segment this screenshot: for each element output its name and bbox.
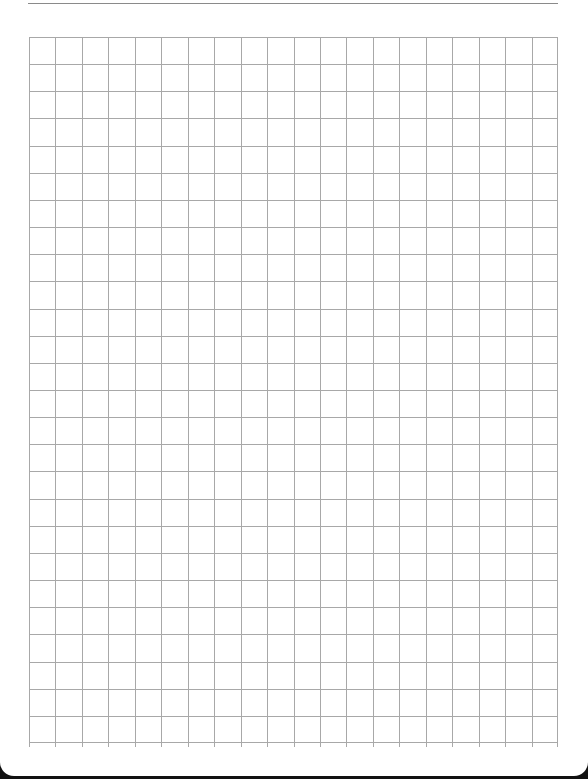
header-rule bbox=[28, 3, 558, 4]
graph-paper-sheet bbox=[0, 0, 588, 776]
graph-grid bbox=[29, 37, 558, 743]
grid-lines bbox=[29, 37, 558, 749]
